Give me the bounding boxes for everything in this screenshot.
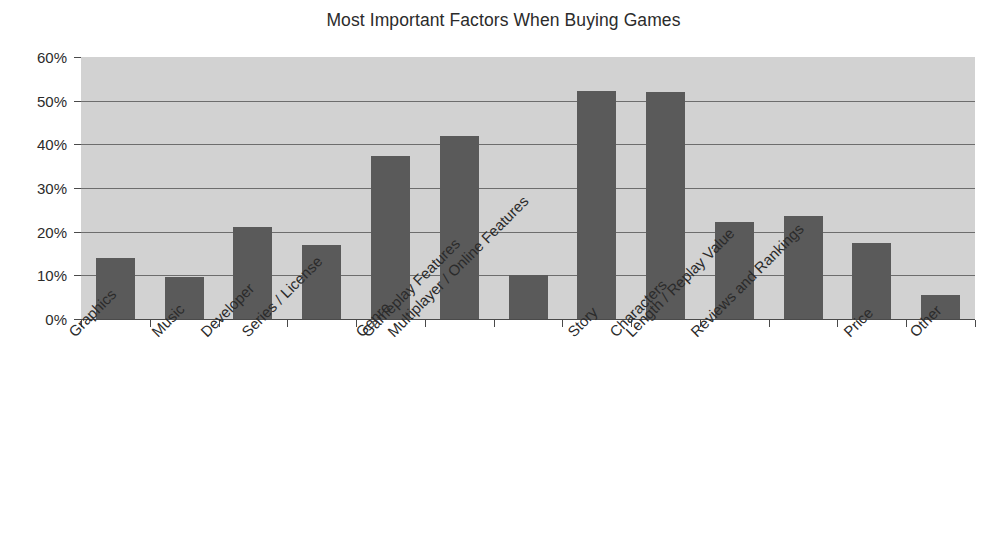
- x-tick-mark: [494, 320, 495, 327]
- y-tick-mark: [74, 275, 81, 276]
- bar-series: [81, 57, 975, 319]
- y-tick-mark: [74, 144, 81, 145]
- x-tick-mark: [562, 320, 563, 327]
- x-tick-mark: [425, 320, 426, 327]
- x-tick-mark: [837, 320, 838, 327]
- chart-figure: Most Important Factors When Buying Games…: [0, 0, 1007, 534]
- bar: [509, 275, 548, 319]
- y-tick-label: 40%: [37, 136, 67, 153]
- x-tick-mark: [287, 320, 288, 327]
- y-tick-label: 30%: [37, 180, 67, 197]
- bar: [577, 91, 616, 319]
- y-tick-label: 10%: [37, 267, 67, 284]
- y-tick-mark: [74, 57, 81, 58]
- x-axis-labels: GraphicsMusicDeveloperSeries / LicenseGe…: [0, 328, 1007, 528]
- y-tick-mark: [74, 188, 81, 189]
- x-tick-mark: [769, 320, 770, 327]
- y-tick-label: 50%: [37, 92, 67, 109]
- y-tick-label: 60%: [37, 49, 67, 66]
- bar: [440, 136, 479, 319]
- plot-area: [81, 57, 975, 319]
- y-tick-mark: [74, 101, 81, 102]
- y-tick-label: 20%: [37, 223, 67, 240]
- bar: [852, 243, 891, 319]
- x-tick-mark: [975, 320, 976, 327]
- chart-title: Most Important Factors When Buying Games: [0, 10, 1007, 31]
- y-tick-mark: [74, 232, 81, 233]
